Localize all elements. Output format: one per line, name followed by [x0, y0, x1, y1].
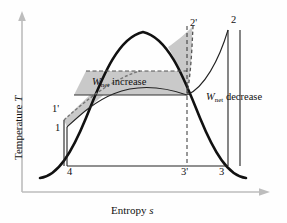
y-axis-label: Temperature T	[13, 96, 24, 160]
wnet-decrease-text: decrease	[223, 91, 262, 102]
wnet-increase-symbol: W	[92, 76, 101, 87]
line-to-2	[187, 30, 228, 95]
state-point-1-prime: 1'	[52, 104, 59, 115]
x-axis-label-text: Entropy	[111, 204, 149, 216]
wnet-increase-text: increase	[109, 76, 146, 87]
saturation-dome-curve	[40, 32, 246, 178]
x-axis-arrow-icon	[259, 188, 270, 196]
state-point-3: 3	[219, 167, 224, 178]
state-point-1: 1	[55, 123, 60, 134]
y-axis-label-symbol: T	[12, 96, 24, 102]
y-axis-label-text: Temperature	[12, 102, 24, 160]
x-axis-label: Entropy s	[111, 205, 153, 216]
state-point-3-prime: 3'	[181, 167, 188, 178]
state-point-2: 2	[231, 15, 236, 26]
ts-diagram-figure: Temperature T Entropy s 1 1' 2' 2 4 3' 3…	[0, 0, 287, 223]
wnet-increase-label: Wnet increase	[92, 77, 146, 89]
wnet-decrease-label: Wnet decrease	[206, 92, 262, 104]
state-point-4: 4	[67, 167, 72, 178]
wnet-decrease-symbol: W	[206, 91, 215, 102]
y-axis-arrow-icon	[18, 11, 26, 21]
state-point-2-prime: 2'	[190, 18, 197, 29]
x-axis-label-symbol: s	[149, 204, 153, 216]
diagram-canvas	[0, 0, 287, 223]
